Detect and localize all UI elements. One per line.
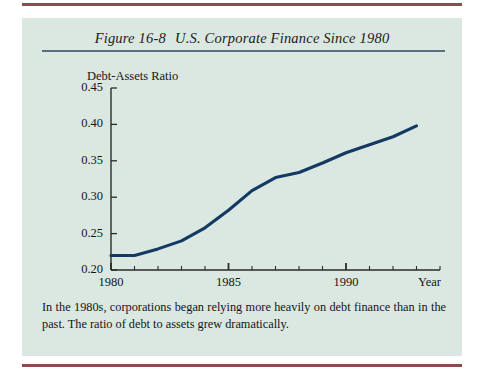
x-tick-label: 1990 [321,275,371,290]
x-axis-ticks [111,263,440,270]
debt-assets-ratio-line [111,126,417,256]
y-tick-label: 0.45 [69,80,103,95]
figure-caption: In the 1980s, corporations began relying… [42,299,446,333]
x-tick-label: 1980 [86,275,136,290]
y-tick-label: 0.35 [69,153,103,168]
figure-panel: Figure 16-8U.S. Corporate Finance Since … [22,18,462,356]
bottom-rule [22,364,462,367]
y-axis-ticks [111,88,117,270]
x-tick-label: 1985 [204,275,254,290]
y-tick-label: 0.40 [69,116,103,131]
top-rule [22,3,462,6]
x-axis-title: Year [418,275,441,290]
y-tick-label: 0.30 [69,189,103,204]
y-tick-label: 0.25 [69,226,103,241]
